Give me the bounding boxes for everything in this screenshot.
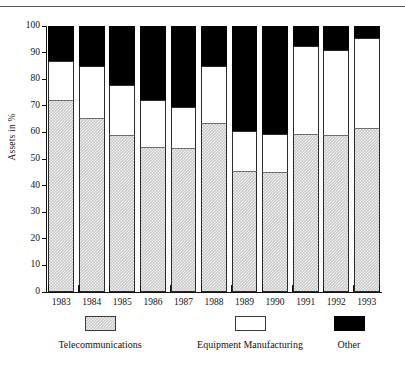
bar-1992 <box>323 26 349 292</box>
bar-segment-other <box>262 26 288 134</box>
bar-segment-telecommunications <box>140 147 166 292</box>
bar-1989 <box>232 26 258 292</box>
x-tick-mark <box>262 285 263 293</box>
legend-item-equipment-manufacturing: Equipment Manufacturing <box>185 316 315 350</box>
chart-legend: Telecommunications Equipment Manufacturi… <box>0 316 405 366</box>
bar-segment-equipment-manufacturing <box>354 38 380 128</box>
bar-segment-telecommunications <box>201 123 227 292</box>
bar-segment-telecommunications <box>293 134 319 292</box>
other-swatch-icon <box>334 316 365 331</box>
bar-segment-equipment-manufacturing <box>140 100 166 147</box>
bar-1993 <box>354 26 380 292</box>
bar-segment-equipment-manufacturing <box>109 85 135 136</box>
bar-1988 <box>201 26 227 292</box>
bar-segment-equipment-manufacturing <box>232 131 258 171</box>
bar-segment-equipment-manufacturing <box>293 46 319 134</box>
bar-segment-equipment-manufacturing <box>262 134 288 173</box>
bar-segment-other <box>354 26 380 38</box>
x-tick-mark <box>231 285 232 293</box>
telecom-swatch-icon <box>85 316 116 331</box>
bar-segment-other <box>293 26 319 46</box>
equipment-swatch-icon <box>235 316 266 331</box>
x-tick-mark <box>140 285 141 293</box>
legend-label-equipment-manufacturing: Equipment Manufacturing <box>185 339 315 350</box>
x-tick-label-1993: 1993 <box>347 297 387 307</box>
legend-label-other: Other <box>318 339 380 350</box>
x-tick-mark <box>292 285 293 293</box>
bar-segment-telecommunications <box>323 135 349 292</box>
bar-segment-telecommunications <box>171 148 197 292</box>
bar-1985 <box>109 26 135 292</box>
bar-segment-telecommunications <box>354 128 380 292</box>
legend-label-telecommunications: Telecommunications <box>40 339 160 350</box>
legend-item-telecommunications: Telecommunications <box>40 316 160 350</box>
bar-segment-other <box>140 26 166 100</box>
bar-segment-telecommunications <box>79 118 105 292</box>
bar-segment-other <box>201 26 227 66</box>
bar-1991 <box>293 26 319 292</box>
bar-segment-telecommunications <box>48 100 74 292</box>
bar-1986 <box>140 26 166 292</box>
bar-segment-telecommunications <box>262 172 288 292</box>
x-tick-mark <box>201 285 202 293</box>
x-tick-mark <box>109 285 110 293</box>
bar-group <box>0 14 405 299</box>
plot-area: Assets in % 0102030405060708090100 19831… <box>0 14 405 299</box>
bar-segment-other <box>48 26 74 61</box>
bar-segment-telecommunications <box>109 135 135 292</box>
bar-1983 <box>48 26 74 292</box>
top-divider-rule <box>0 6 405 7</box>
bar-segment-equipment-manufacturing <box>48 61 74 101</box>
bar-segment-equipment-manufacturing <box>201 66 227 123</box>
x-tick-mark <box>353 285 354 293</box>
bar-1984 <box>79 26 105 292</box>
bar-segment-equipment-manufacturing <box>171 107 197 148</box>
bar-segment-other <box>323 26 349 50</box>
x-tick-mark <box>323 285 324 293</box>
bar-segment-equipment-manufacturing <box>79 66 105 118</box>
legend-item-other: Other <box>318 316 380 350</box>
bar-segment-other <box>109 26 135 85</box>
x-tick-mark <box>78 285 79 293</box>
bar-segment-equipment-manufacturing <box>323 50 349 135</box>
x-tick-mark <box>379 285 380 293</box>
x-tick-mark <box>170 285 171 293</box>
bar-segment-telecommunications <box>232 171 258 292</box>
bar-segment-other <box>232 26 258 131</box>
bar-segment-other <box>171 26 197 107</box>
bar-1990 <box>262 26 288 292</box>
x-tick-mark <box>48 285 49 293</box>
stacked-bar-chart-figure: Assets in % 0102030405060708090100 19831… <box>0 0 405 374</box>
bar-1987 <box>171 26 197 292</box>
bar-segment-other <box>79 26 105 66</box>
